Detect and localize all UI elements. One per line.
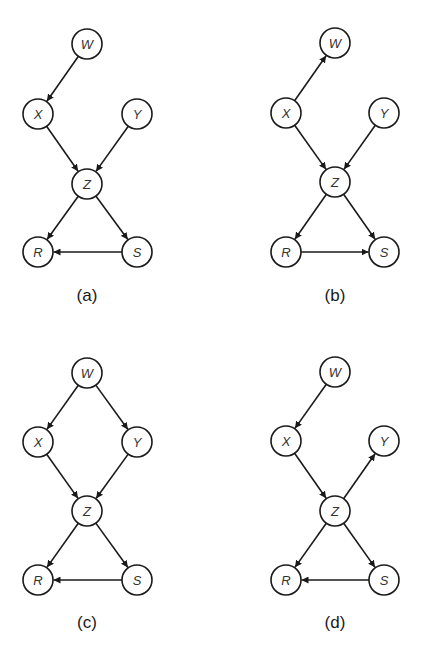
diagram-panel-c: WXYZRS(c) (23, 358, 152, 632)
edge-x-to-w (295, 56, 327, 101)
node-label: S (133, 245, 142, 260)
edge-z-to-s (344, 194, 376, 239)
panel-label: (d) (325, 613, 346, 632)
node-label: R (33, 573, 42, 588)
edge-x-to-z (47, 454, 78, 498)
node-label: X (281, 106, 292, 121)
node-w: W (72, 29, 102, 59)
node-label: Z (82, 504, 92, 519)
edge-z-to-s (344, 523, 375, 567)
node-label: S (133, 573, 142, 588)
edge-z-to-s (96, 196, 128, 239)
node-label: W (81, 37, 95, 52)
edge-x-to-z (47, 126, 79, 171)
node-x: X (23, 99, 53, 129)
node-r: R (23, 237, 53, 267)
edge-w-to-x (47, 385, 78, 429)
edge-w-to-x (47, 56, 79, 101)
node-label: W (329, 36, 343, 51)
node-label: X (33, 107, 44, 122)
edge-z-to-r (47, 523, 78, 567)
node-label: R (281, 245, 290, 260)
node-label: Y (133, 107, 143, 122)
node-y: Y (122, 99, 152, 129)
edge-z-to-r (295, 194, 327, 239)
edge-z-to-r (295, 523, 326, 567)
node-label: Y (133, 435, 143, 450)
node-x: X (23, 427, 53, 457)
node-w: W (72, 358, 102, 388)
node-y: Y (369, 98, 399, 128)
node-label: Z (330, 175, 340, 190)
diagram-panel-a: WXYZRS(a) (23, 29, 152, 305)
panels-container: WXYZRS(a)WXYZRS(b)WXYZRS(c)WXYZRS(d) (23, 28, 399, 632)
node-x: X (271, 98, 301, 128)
panel-label: (a) (77, 286, 98, 305)
node-label: Z (82, 177, 92, 192)
panel-label: (c) (77, 613, 97, 632)
node-label: Z (330, 504, 340, 519)
node-label: Y (380, 434, 390, 449)
node-r: R (271, 237, 301, 267)
node-r: R (271, 565, 301, 595)
dag-figure: WXYZRS(a)WXYZRS(b)WXYZRS(c)WXYZRS(d) (0, 0, 427, 649)
node-z: Z (72, 496, 102, 526)
edge-w-to-y (96, 385, 128, 429)
node-label: X (281, 434, 292, 449)
node-z: Z (72, 169, 102, 199)
node-w: W (320, 28, 350, 58)
node-label: Y (380, 106, 390, 121)
diagram-panel-b: WXYZRS(b) (271, 28, 399, 305)
node-s: S (122, 565, 152, 595)
edge-z-to-r (47, 196, 78, 239)
node-label: R (281, 573, 290, 588)
edge-z-to-y (344, 454, 376, 499)
node-label: W (329, 365, 343, 380)
node-y: Y (122, 427, 152, 457)
node-label: R (33, 245, 42, 260)
edge-y-to-z (96, 454, 128, 498)
edge-x-to-z (295, 453, 327, 498)
node-x: X (271, 426, 301, 456)
node-w: W (320, 357, 350, 387)
node-s: S (122, 237, 152, 267)
node-s: S (369, 237, 399, 267)
node-z: Z (320, 496, 350, 526)
edge-y-to-z (344, 125, 375, 169)
panel-label: (b) (325, 286, 346, 305)
node-y: Y (369, 426, 399, 456)
node-label: X (33, 435, 44, 450)
edge-w-to-x (295, 384, 326, 428)
node-label: S (380, 245, 389, 260)
node-s: S (369, 565, 399, 595)
node-label: S (380, 573, 389, 588)
diagram-panel-d: WXYZRS(d) (271, 357, 399, 632)
node-label: W (81, 366, 95, 381)
node-r: R (23, 565, 53, 595)
edge-y-to-z (96, 126, 128, 171)
edge-x-to-z (295, 125, 326, 169)
node-z: Z (320, 167, 350, 197)
figure-caption-cutoff (0, 640, 427, 649)
edge-z-to-s (96, 523, 128, 567)
